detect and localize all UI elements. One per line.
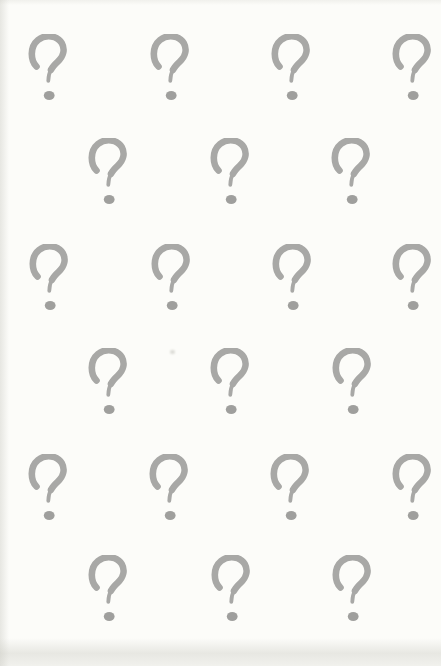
- question-mark-icon: [148, 34, 192, 104]
- question-mark-pattern-page: [0, 0, 441, 666]
- question-mark-icon: [26, 34, 70, 104]
- question-mark-icon: [390, 244, 434, 314]
- question-mark-icon: [208, 138, 252, 208]
- question-mark-icon: [390, 454, 434, 524]
- question-mark-icon: [208, 348, 252, 418]
- question-mark-icon: [86, 138, 130, 208]
- question-mark-icon: [330, 555, 374, 625]
- question-mark-icon: [27, 244, 71, 314]
- question-mark-icon: [268, 454, 312, 524]
- bottom-edge-shade: [0, 638, 441, 666]
- question-mark-icon: [390, 34, 434, 104]
- question-mark-icon: [149, 244, 193, 314]
- question-mark-icon: [209, 555, 253, 625]
- question-mark-icon: [86, 555, 130, 625]
- top-edge-shade: [0, 0, 441, 5]
- question-mark-icon: [147, 454, 191, 524]
- question-mark-icon: [269, 34, 313, 104]
- question-mark-icon: [329, 138, 373, 208]
- question-mark-icon: [330, 348, 374, 418]
- left-edge-shade: [0, 0, 9, 666]
- question-mark-icon: [86, 348, 130, 418]
- dust-speck: [170, 350, 175, 354]
- question-mark-icon: [270, 244, 314, 314]
- question-mark-icon: [26, 454, 70, 524]
